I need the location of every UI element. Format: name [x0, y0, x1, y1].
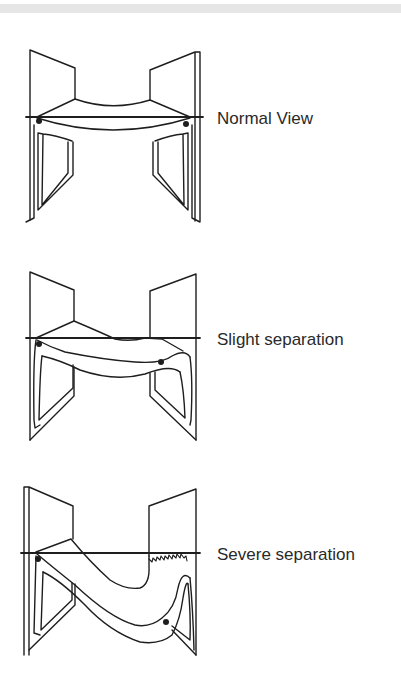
severe-separation-drawing: [0, 470, 401, 673]
slight-separation-drawing: [0, 260, 401, 460]
severe-separation-label: Severe separation: [217, 546, 355, 563]
slight-separation-label: Slight separation: [217, 331, 344, 348]
normal-view-label: Normal View: [217, 110, 313, 127]
normal-view-drawing: [0, 0, 401, 240]
